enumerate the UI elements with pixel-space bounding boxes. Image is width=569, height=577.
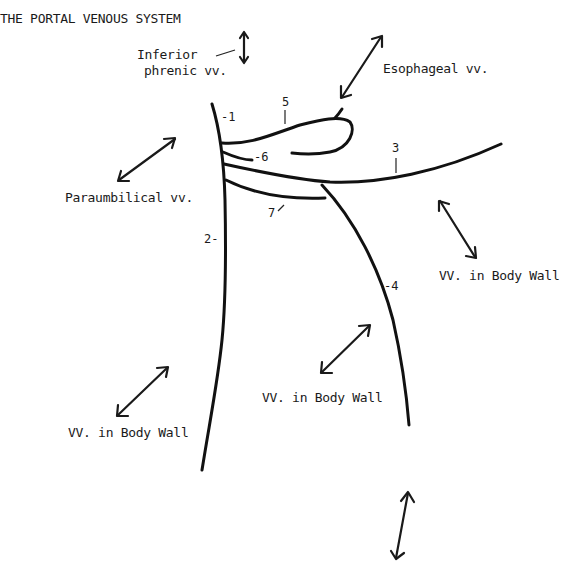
arrow-body-wall-right <box>439 201 476 258</box>
tick-7 <box>278 205 284 211</box>
arrow-paraumbilical <box>118 138 175 181</box>
arrow-inferior-phrenic <box>240 32 248 63</box>
arrow-esophageal <box>341 36 382 98</box>
vein-5-hook <box>335 109 342 118</box>
arrow-body-wall-left <box>117 367 168 416</box>
vein-5-loop <box>222 119 352 154</box>
vein-7 <box>226 180 325 198</box>
vein-4 <box>322 185 409 425</box>
vein-1-2 <box>202 104 226 470</box>
arrow-bottom <box>391 492 414 559</box>
tick-inferior-phrenic <box>216 50 235 56</box>
vein-diagram <box>0 0 569 577</box>
vein-6 <box>223 152 252 160</box>
vein-3 <box>224 144 501 182</box>
arrow-body-wall-center <box>321 325 370 373</box>
